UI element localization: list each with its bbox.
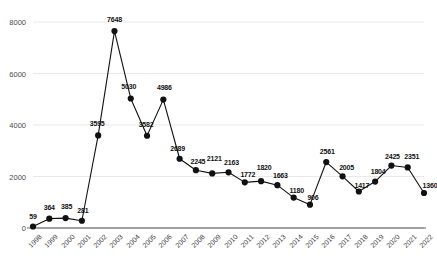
data-point-label: 906 [307,194,318,201]
data-point-marker [30,223,36,229]
data-point-label: 1772 [240,171,255,178]
data-point-marker [209,170,215,176]
data-point-marker [177,156,183,162]
data-point-label: 59 [29,213,36,220]
data-point-marker [274,182,280,188]
data-point-label: 2561 [320,148,335,155]
data-point-label: 281 [77,207,88,214]
data-point-marker [405,164,411,170]
data-point-marker [46,216,52,222]
y-axis-tick-label: 0 [0,224,26,233]
data-point-marker [388,162,394,168]
data-point-label: 7648 [107,16,122,23]
data-point-marker [421,190,427,196]
data-point-marker [111,28,117,34]
data-point-label: 2245 [191,158,206,165]
data-line [33,31,424,226]
y-axis-tick-label: 2000 [0,172,26,181]
data-point-label: 2121 [207,155,222,162]
data-point-label: 1417 [354,182,369,189]
data-point-label: 2425 [385,153,400,160]
data-point-marker [258,178,264,184]
y-axis-tick-label: 6000 [0,69,26,78]
data-point-label: 1820 [257,164,272,171]
data-point-label: 3595 [90,120,105,127]
data-point-label: 1804 [371,168,386,175]
data-point-marker [242,179,248,185]
data-point-marker [62,215,68,221]
data-point-marker [128,95,134,101]
data-point-marker [323,159,329,165]
data-point-marker [356,188,362,194]
data-point-label: 1360 [423,182,437,189]
data-point-markers [30,28,427,230]
data-point-label: 3582 [139,121,154,128]
data-point-label: 5030 [121,83,136,90]
data-point-marker [160,97,166,103]
data-point-marker [144,133,150,139]
y-axis-tick-label: 4000 [0,121,26,130]
data-point-label: 1180 [289,187,303,194]
data-point-label: 2351 [404,153,419,160]
data-point-marker [307,202,313,208]
data-point-label: 2005 [339,164,354,171]
data-point-label: 2689 [170,145,185,152]
y-axis-tick-label: 8000 [0,18,26,27]
data-point-label: 364 [44,204,55,211]
data-point-label: 4986 [157,84,172,91]
data-point-marker [79,218,85,224]
data-point-marker [193,167,199,173]
data-point-label: 2163 [224,159,239,166]
data-point-marker [372,178,378,184]
data-point-label: 1663 [273,172,288,179]
data-point-marker [225,169,231,175]
data-point-marker [291,195,297,201]
data-point-label: 385 [61,203,72,210]
data-point-marker [339,173,345,179]
data-point-marker [95,132,101,138]
